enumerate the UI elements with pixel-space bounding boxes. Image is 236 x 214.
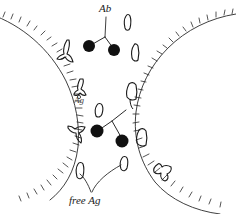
antibody-antigen-diagram: Ab Ag free Ag bbox=[0, 0, 236, 214]
leader-line-free-ag-right bbox=[92, 165, 121, 192]
antigen-dot-top-left bbox=[83, 40, 95, 52]
right-cell-membrane bbox=[133, 9, 236, 214]
free-antigen-lower-right bbox=[120, 157, 127, 171]
free-antigen-top bbox=[124, 15, 130, 31]
leader-line-ab bbox=[105, 17, 106, 37]
antigen-dot-center-right bbox=[116, 135, 129, 148]
free-antibody-top bbox=[83, 37, 120, 56]
membrane-antibody-right-lower bbox=[137, 129, 147, 146]
membrane-antibody-left-lower bbox=[68, 126, 85, 143]
right-cell-receptors bbox=[133, 9, 233, 207]
antigen-label: Ag bbox=[74, 96, 84, 105]
membrane-antibody-right-upper bbox=[132, 44, 139, 61]
antibody-label: Ab bbox=[99, 3, 111, 14]
leader-line-free-ag-left bbox=[80, 174, 91, 192]
antigen-dot-center-left bbox=[91, 125, 104, 138]
membrane-antibody-right-bottom bbox=[154, 164, 172, 181]
free-antigen-mid bbox=[95, 104, 102, 118]
diagram-canvas bbox=[0, 0, 236, 214]
free-antigen-label: free Ag bbox=[69, 195, 100, 206]
left-cell-membrane bbox=[0, 12, 83, 201]
antigen-dot-top-right bbox=[108, 44, 120, 56]
